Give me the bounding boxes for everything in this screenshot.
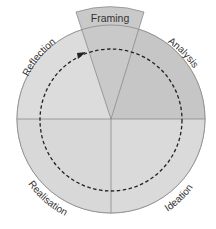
label-framing: Framing [91, 12, 130, 24]
cycle-diagram: Framing Reflection Analysis Realisation … [0, 0, 216, 229]
segment-realisation [17, 119, 111, 213]
segment-ideation [111, 119, 205, 213]
